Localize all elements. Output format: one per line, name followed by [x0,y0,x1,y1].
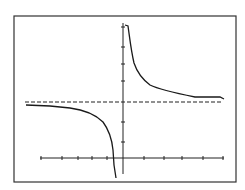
graph-plot [0,0,245,190]
curve-left-branch [26,105,116,178]
curve-right-branch [125,25,224,99]
